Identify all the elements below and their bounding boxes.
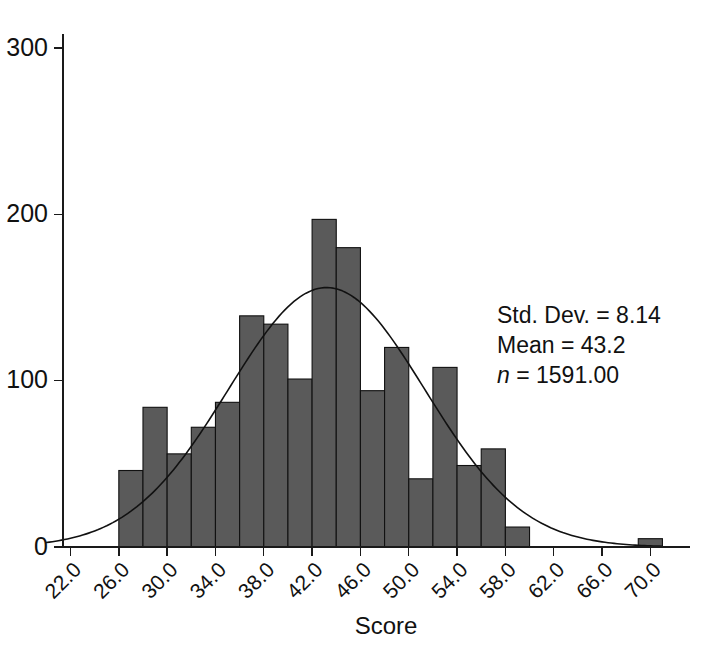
statistics-annotation: Std. Dev. = 8.14 Mean = 43.2 n = 1591.00 [497, 300, 661, 390]
histogram-figure: 0100200300 22.026.030.034.038.042.046.05… [0, 0, 712, 655]
x-tick-label: 26.0 [88, 558, 133, 603]
y-tick-label: 200 [6, 199, 48, 227]
y-tick-label: 0 [34, 532, 48, 560]
histogram-bar [505, 527, 529, 547]
histogram-bar [119, 471, 143, 547]
histogram-bar [191, 427, 215, 547]
histogram-bar [167, 454, 191, 547]
x-tick-label: 42.0 [282, 558, 327, 603]
y-tick-label: 300 [6, 33, 48, 61]
y-axis-ticks: 0100200300 [6, 33, 63, 560]
histogram-bar [288, 379, 312, 547]
n-symbol: n [497, 362, 510, 388]
x-axis-ticks: 22.026.030.034.038.042.046.050.054.058.0… [40, 547, 665, 603]
x-tick-label: 50.0 [378, 558, 423, 603]
x-tick-label: 58.0 [475, 558, 520, 603]
x-tick-label: 34.0 [185, 558, 230, 603]
histogram-bar [240, 316, 264, 547]
histogram-bar [143, 407, 167, 547]
x-axis-title: Score [355, 612, 418, 639]
histogram-bar [264, 324, 288, 547]
x-tick-label: 22.0 [40, 558, 85, 603]
histogram-bar [409, 479, 433, 547]
x-tick-label: 30.0 [137, 558, 182, 603]
histogram-bar [336, 248, 360, 547]
histogram-bar [481, 449, 505, 547]
histogram-bar [215, 402, 239, 547]
x-tick-label: 54.0 [427, 558, 472, 603]
figure-caption [0, 640, 712, 655]
histogram-bar [385, 347, 409, 547]
x-tick-label: 66.0 [572, 558, 617, 603]
histogram-bar [433, 367, 457, 547]
x-tick-label: 70.0 [620, 558, 665, 603]
x-tick-label: 38.0 [233, 558, 278, 603]
histogram-bar [457, 466, 481, 547]
y-tick-label: 100 [6, 365, 48, 393]
sample-size-label: n = 1591.00 [497, 360, 661, 390]
x-tick-label: 46.0 [330, 558, 375, 603]
x-tick-label: 62.0 [523, 558, 568, 603]
histogram-bar [312, 219, 336, 547]
histogram-bar [360, 391, 384, 547]
std-dev-label: Std. Dev. = 8.14 [497, 300, 661, 330]
mean-label: Mean = 43.2 [497, 330, 661, 360]
n-value: = 1591.00 [510, 362, 619, 388]
